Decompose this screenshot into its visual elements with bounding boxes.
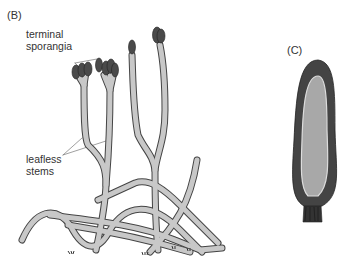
panel-c-label: (C)	[287, 44, 302, 56]
sporangium-cross-section	[293, 60, 337, 222]
stem-outlines	[22, 45, 222, 252]
terminal-sporangia	[72, 27, 165, 79]
rhynia-plant-illustration	[0, 0, 353, 265]
